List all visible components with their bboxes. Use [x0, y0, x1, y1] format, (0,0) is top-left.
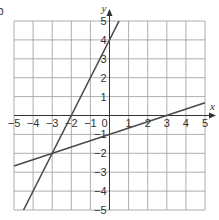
x-tick-label: 0 — [101, 117, 107, 129]
x-axis-label: x — [209, 100, 215, 112]
x-tick-label: 5 — [202, 117, 208, 129]
x-tick-label: 1 — [126, 117, 132, 129]
x-tick-label: −2 — [65, 117, 78, 129]
y-tick-label: 5 — [100, 15, 106, 27]
y-tick-label: −1 — [94, 128, 107, 140]
x-tick-label: −5 — [8, 117, 21, 129]
coordinate-grid-chart: −5−4−3−2−101234554321−1−2−3−4−5xy — [0, 0, 219, 220]
y-tick-label: 2 — [100, 72, 106, 84]
x-tick-label: −3 — [46, 117, 59, 129]
x-tick-label: −1 — [84, 117, 97, 129]
x-tick-label: −4 — [27, 117, 40, 129]
x-tick-label: 4 — [183, 117, 189, 129]
x-axis-arrow-icon — [209, 113, 216, 119]
y-tick-label: −3 — [94, 166, 107, 178]
y-tick-label: −5 — [94, 204, 107, 216]
x-tick-label: 2 — [145, 117, 151, 129]
y-tick-label: 4 — [100, 34, 106, 46]
x-tick-label: 3 — [164, 117, 170, 129]
y-tick-label: −4 — [94, 185, 107, 197]
y-tick-label: 1 — [100, 91, 106, 103]
y-axis-arrow-icon — [107, 9, 113, 16]
y-tick-label: −2 — [94, 147, 107, 159]
y-tick-label: 3 — [100, 53, 106, 65]
y-axis-label: y — [101, 2, 107, 14]
